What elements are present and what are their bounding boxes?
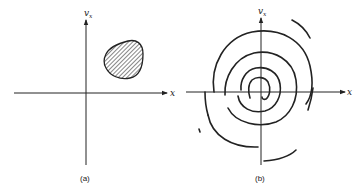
x-axis-label-b: x xyxy=(347,87,352,97)
phase-space-figure: vx x (a) vx x (b) xyxy=(0,0,360,192)
panel-a: vx x (a) xyxy=(14,8,175,183)
vx-axis-label-a: vx xyxy=(84,8,93,19)
x-axis-label-a: x xyxy=(170,88,175,98)
phase-region-blob xyxy=(104,41,143,79)
caption-a: (a) xyxy=(80,174,90,183)
panel-b: vx x (b) xyxy=(186,6,352,183)
spiral-filament xyxy=(199,20,313,161)
caption-b: (b) xyxy=(255,174,265,183)
vx-axis-label-b: vx xyxy=(258,6,267,17)
